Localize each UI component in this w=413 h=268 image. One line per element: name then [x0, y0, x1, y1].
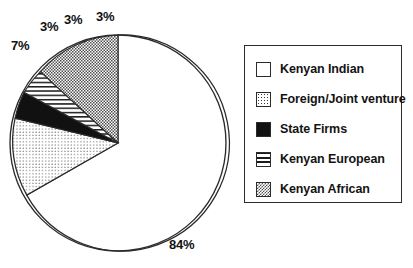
pie-label-kenyan-indian: 84% — [169, 237, 194, 252]
legend-swatch-kenyan-african — [256, 182, 271, 197]
pie-label-kenyan-european: 3% — [64, 12, 82, 27]
legend-label-foreign-joint-venture: Foreign/Joint venture — [280, 92, 406, 106]
legend-label-kenyan-indian: Kenyan Indian — [280, 62, 364, 76]
legend-label-kenyan-african: Kenyan African — [280, 182, 370, 196]
pie-chart-figure: 7% 3% 3% 3% 84% Kenyan Indian Foreign/Jo… — [0, 0, 413, 268]
legend-item-kenyan-indian: Kenyan Indian — [256, 55, 401, 83]
legend-swatch-kenyan-indian — [256, 62, 271, 77]
pie-chart-svg — [0, 0, 248, 268]
pie-chart-area: 7% 3% 3% 3% 84% — [0, 0, 248, 268]
legend-label-kenyan-european: Kenyan European — [280, 152, 385, 166]
pie-label-state-firms: 3% — [40, 19, 58, 34]
chart-legend: Kenyan Indian Foreign/Joint venture Stat… — [244, 45, 402, 203]
legend-label-state-firms: State Firms — [280, 122, 347, 136]
pie-label-kenyan-african: 3% — [96, 9, 114, 24]
legend-item-kenyan-african: Kenyan African — [256, 175, 401, 203]
legend-item-kenyan-european: Kenyan European — [256, 145, 401, 173]
pie-label-foreign-joint-venture: 7% — [11, 38, 29, 53]
legend-swatch-state-firms — [256, 122, 271, 137]
legend-swatch-kenyan-european — [256, 152, 271, 167]
legend-item-foreign-joint-venture: Foreign/Joint venture — [256, 85, 401, 113]
legend-swatch-foreign-joint-venture — [256, 92, 271, 107]
legend-item-state-firms: State Firms — [256, 115, 401, 143]
